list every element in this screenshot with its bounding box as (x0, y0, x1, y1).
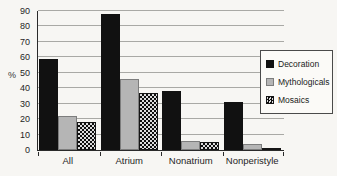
gridline-80 (38, 25, 284, 26)
legend-entry-decoration: Decoration (266, 59, 327, 69)
bar-mosaics-nonperistyle (262, 148, 281, 150)
legend-label-mosaics: Mosaics (278, 95, 309, 105)
bar-group-atrium (100, 14, 162, 150)
gridline-60 (38, 56, 284, 57)
legend: Decoration Mythologicals Mosaics (260, 50, 333, 114)
y-tick-label-30: 30 (0, 99, 30, 109)
mosaics-swatch-icon (266, 96, 274, 104)
y-tick-label-10: 10 (0, 130, 30, 140)
bar-decoration-atrium (101, 14, 120, 150)
bar-mosaics-all (77, 122, 96, 150)
bar-group-nonatrium (161, 91, 223, 150)
bar-chart-figure: % 0102030405060708090 AllAtriumNonatrium… (0, 0, 337, 176)
y-tick-label-80: 80 (0, 21, 30, 31)
bar-decoration-all (39, 59, 58, 150)
bar-mosaics-nonatrium (200, 142, 219, 150)
decoration-swatch-icon (266, 60, 274, 68)
bar-mythologicals-all (58, 116, 77, 150)
y-tick-label-0: 0 (0, 145, 30, 155)
x-label-nonperistyle: Nonperistyle (222, 155, 284, 166)
y-tick-label-50: 50 (0, 68, 30, 78)
y-tick-label-20: 20 (0, 114, 30, 124)
gridline-90 (38, 10, 284, 11)
legend-entry-mythologicals: Mythologicals (266, 77, 327, 87)
mythologicals-swatch-icon (266, 78, 274, 86)
bar-mythologicals-nonatrium (181, 141, 200, 150)
x-label-all: All (37, 155, 99, 166)
y-tick-label-70: 70 (0, 37, 30, 47)
bar-mythologicals-atrium (120, 79, 139, 150)
y-tick-label-40: 40 (0, 83, 30, 93)
legend-label-decoration: Decoration (278, 59, 319, 69)
x-label-atrium: Atrium (99, 155, 161, 166)
x-axis-tick (283, 152, 284, 156)
plot-area (37, 11, 284, 151)
x-axis-labels: AllAtriumNonatriumNonperistyle (37, 155, 283, 171)
bar-mythologicals-nonperistyle (243, 144, 262, 150)
y-axis-tick-labels: 0102030405060708090 (0, 11, 33, 150)
y-tick-label-60: 60 (0, 52, 30, 62)
legend-entry-mosaics: Mosaics (266, 95, 327, 105)
bar-decoration-nonperistyle (224, 102, 243, 150)
gridline-70 (38, 41, 284, 42)
bar-mosaics-atrium (139, 93, 158, 150)
legend-label-mythologicals: Mythologicals (278, 77, 330, 87)
bar-group-all (38, 59, 100, 150)
bar-decoration-nonatrium (162, 91, 181, 150)
x-label-nonatrium: Nonatrium (160, 155, 222, 166)
y-tick-label-90: 90 (0, 6, 30, 16)
